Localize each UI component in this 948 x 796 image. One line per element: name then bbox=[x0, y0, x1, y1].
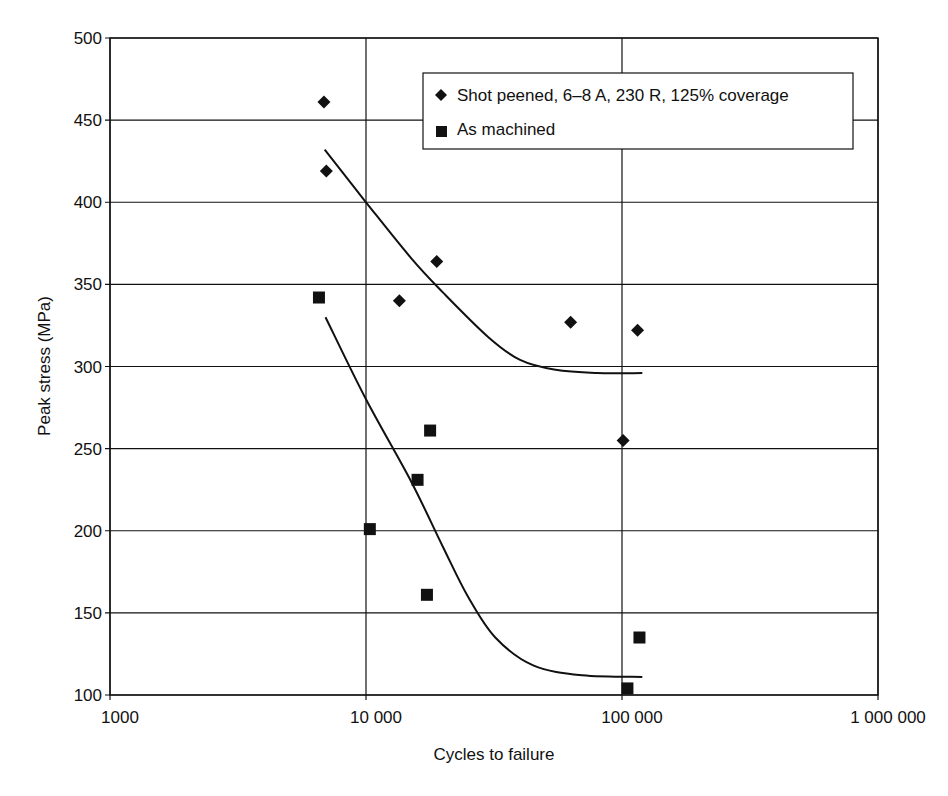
y-tick-label: 500 bbox=[74, 29, 102, 48]
y-tick-label: 300 bbox=[74, 358, 102, 377]
square-data-point bbox=[621, 682, 633, 694]
square-data-point bbox=[421, 589, 433, 601]
y-tick-label: 400 bbox=[74, 193, 102, 212]
square-data-point bbox=[412, 474, 424, 486]
diamond-data-point bbox=[617, 434, 630, 447]
x-tick-label: 1000 bbox=[101, 708, 139, 727]
y-axis-ticks: 100150200250300350400450500 bbox=[74, 29, 102, 705]
trend-curve-as-machined bbox=[326, 317, 643, 677]
y-tick-label: 250 bbox=[74, 440, 102, 459]
square-data-point bbox=[424, 425, 436, 437]
diamond-data-point bbox=[317, 96, 330, 109]
trend-curve-shot-peened bbox=[325, 150, 643, 374]
diamond-data-point bbox=[564, 316, 577, 329]
square-data-point bbox=[633, 632, 645, 644]
diamond-data-point bbox=[393, 294, 406, 307]
diamond-data-point bbox=[320, 165, 333, 178]
diamond-data-point bbox=[430, 255, 443, 268]
trend-curves bbox=[325, 150, 643, 677]
legend-label-shot-peened: Shot peened, 6–8 A, 230 R, 125% coverage bbox=[457, 86, 789, 105]
legend: Shot peened, 6–8 A, 230 R, 125% coverage… bbox=[423, 73, 853, 149]
y-tick-label: 200 bbox=[74, 522, 102, 541]
y-axis-title: Peak stress (MPa) bbox=[35, 296, 54, 436]
x-axis-ticks: 100010 000100 0001 000 000 bbox=[101, 708, 926, 727]
square-data-point bbox=[364, 523, 376, 535]
legend-label-as-machined: As machined bbox=[457, 120, 555, 139]
y-tick-label: 350 bbox=[74, 275, 102, 294]
legend-item-shot-peened: Shot peened, 6–8 A, 230 R, 125% coverage bbox=[435, 86, 789, 105]
y-tick-label: 150 bbox=[74, 604, 102, 623]
y-tick-label: 450 bbox=[74, 111, 102, 130]
x-tick-label: 100 000 bbox=[601, 708, 662, 727]
square-marker-icon bbox=[436, 126, 447, 137]
x-axis-title: Cycles to failure bbox=[434, 745, 555, 764]
chart: 100150200250300350400450500 100010 00010… bbox=[0, 0, 948, 796]
x-tick-label: 10 000 bbox=[350, 708, 402, 727]
diamond-data-point bbox=[631, 324, 644, 337]
square-data-point bbox=[313, 292, 325, 304]
x-tick-label: 1 000 000 bbox=[850, 708, 926, 727]
y-tick-label: 100 bbox=[74, 686, 102, 705]
